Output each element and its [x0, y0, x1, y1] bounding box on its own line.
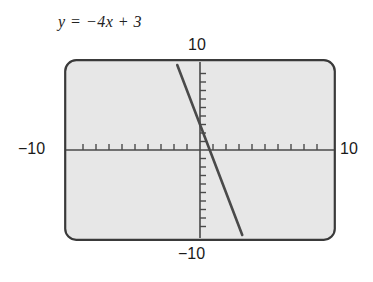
x-axis-max-label: 10 [340, 140, 358, 158]
graph-canvas [64, 59, 336, 241]
x-axis-min-label: −10 [18, 140, 45, 158]
y-axis-min-label: −10 [178, 245, 205, 263]
calculator-viewport [64, 59, 336, 241]
graph-figure: y = −4x + 3 10 −10 10 −10 [0, 0, 373, 282]
equation-caption: y = −4x + 3 [58, 13, 142, 31]
y-axis-max-label: 10 [188, 36, 206, 54]
